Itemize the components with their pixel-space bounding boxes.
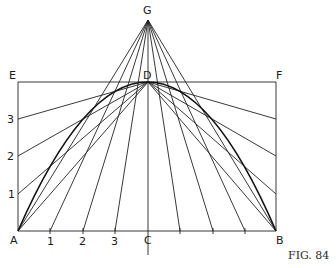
label-B: B: [276, 234, 284, 247]
fan-lines-from-G: [18, 20, 276, 231]
label-G: G: [143, 4, 152, 17]
chord-AD: [18, 82, 148, 231]
figure-caption: FIG. 84: [288, 249, 329, 262]
parabola-construction-diagram: G E D F A C B 3 2 1 1 2 3 FIG. 84: [0, 0, 336, 268]
label-A: A: [10, 234, 18, 247]
label-side-3: 3: [7, 113, 14, 126]
parabola-curve: [18, 82, 276, 231]
label-base-3: 3: [111, 235, 118, 248]
label-D: D: [143, 69, 151, 82]
label-base-1: 1: [47, 235, 54, 248]
label-side-1: 1: [8, 188, 15, 201]
label-E: E: [9, 69, 16, 82]
label-base-2: 2: [79, 235, 86, 248]
label-C: C: [144, 234, 152, 247]
side-lines-to-D: [18, 82, 276, 194]
label-F: F: [276, 69, 282, 82]
chord-BD: [148, 82, 276, 231]
label-side-2: 2: [7, 150, 14, 163]
